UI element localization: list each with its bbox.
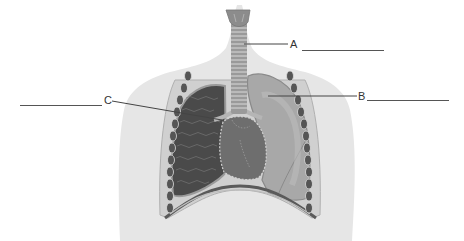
trachea-rings — [231, 28, 247, 108]
thorax-illustration — [0, 0, 464, 241]
answer-blank-a[interactable] — [302, 50, 384, 51]
label-c: C — [104, 95, 112, 106]
heart — [220, 117, 267, 180]
respiratory-diagram: A B C — [0, 0, 464, 241]
larynx — [226, 10, 250, 27]
label-b: B — [358, 91, 365, 102]
answer-blank-c[interactable] — [20, 105, 102, 106]
answer-blank-b[interactable] — [367, 100, 449, 101]
label-a: A — [290, 39, 297, 50]
